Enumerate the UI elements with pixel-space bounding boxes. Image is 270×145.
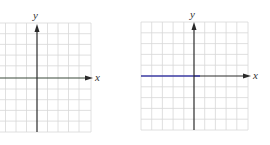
right-y-arrow-icon bbox=[192, 22, 197, 30]
left-x-arrow-icon bbox=[85, 76, 93, 81]
left-x-label: x bbox=[94, 71, 100, 83]
right-x-label: x bbox=[252, 69, 258, 81]
left-y-arrow-icon bbox=[35, 24, 40, 32]
left-graph: y x bbox=[0, 9, 100, 132]
left-y-label: y bbox=[32, 9, 38, 21]
right-y-label: y bbox=[189, 8, 195, 20]
right-x-arrow-icon bbox=[243, 74, 251, 79]
graphs-figure: y x y bbox=[0, 0, 270, 145]
right-graph: y x bbox=[141, 8, 258, 130]
